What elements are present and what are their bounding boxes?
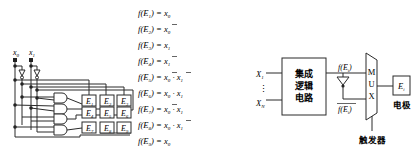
equation-list: f(E1) = x0 f(E2) = x0 f(E3) = x1 f(E4) =… (138, 8, 191, 147)
equation-e5: f(E5) = x0 · x1 (138, 72, 191, 83)
mux-letter-x: X (368, 91, 374, 101)
input-xn-label: XN (255, 98, 265, 109)
electrode-e5: E5 (100, 107, 114, 119)
and-gate-icon (54, 104, 67, 114)
svg-text:f(E8) = x0 · x1: f(E8) = x0 · x1 (138, 120, 183, 131)
figure-canvas: x0 x1 (0, 0, 420, 155)
svg-text:f(E2) = x0: f(E2) = x0 (138, 24, 171, 35)
electrode-e6: E6 (117, 107, 131, 119)
left-circuit: x0 x1 (12, 48, 133, 137)
svg-text:f(E6) = x0 · x1: f(E6) = x0 · x1 (138, 88, 183, 99)
logic-block-line1: 集成 (294, 68, 313, 79)
equation-e3: f(E3) = x1 (138, 40, 170, 51)
inverter-x1-icon (34, 70, 40, 76)
electrode-caption: 电极 (393, 100, 411, 110)
right-block-diagram: X1 ⋮ XN 集成 逻辑 电路 f(Ei) f(Ei) M U X (255, 53, 411, 145)
inverter-icon (337, 77, 349, 85)
equation-e1: f(E1) = x0 (138, 8, 171, 19)
input-ellipsis: ⋮ (259, 84, 268, 94)
electrode-e3: E3 (117, 95, 131, 107)
and-gate-icon (54, 114, 67, 124)
inverter-x0-icon (19, 70, 25, 76)
electrode-e1: E1 (82, 95, 96, 107)
equation-e2: f(E2) = x0 (138, 24, 177, 35)
input-x0-label: x0 (12, 48, 20, 58)
electrode-e4: E4 (82, 107, 96, 119)
inverted-signal-label: f(Ei) (338, 105, 352, 115)
equation-e9: f(E9) = x0 (138, 136, 171, 147)
input-pad-x0 (13, 58, 17, 62)
trigger-label: 触发器 (358, 135, 386, 145)
equation-e4: f(E4) = x1 (138, 56, 177, 67)
electrode-grid: E1 E2 E3 E4 E5 E6 E7 E8 E9 (82, 95, 131, 134)
input-x1-label: X1 (255, 69, 264, 80)
logic-block-line3: 电路 (295, 92, 314, 103)
and-gate-icon (54, 125, 67, 135)
svg-text:f(E7) = x0 · x1: f(E7) = x0 · x1 (138, 104, 183, 115)
mux-letter-m: M (368, 67, 376, 77)
svg-text:f(E3) = x1: f(E3) = x1 (138, 40, 170, 51)
electrode-e9: E9 (117, 122, 131, 134)
electrode-e8: E8 (100, 122, 114, 134)
input-pad-x1 (29, 58, 33, 62)
svg-text:f(E4) = x1: f(E4) = x1 (138, 56, 170, 67)
electrode-e7: E7 (82, 122, 96, 134)
and-gates (54, 93, 67, 135)
svg-text:f(E9) = x0: f(E9) = x0 (138, 136, 171, 147)
equation-e6: f(E6) = x0 · x1 (138, 88, 183, 99)
svg-text:f(E5) = x0 · x1: f(E5) = x0 · x1 (138, 72, 183, 83)
signal-label: f(Ei) (338, 63, 352, 73)
equation-e7: f(E7) = x0 · x1 (138, 104, 183, 115)
electrode-e2: E2 (100, 95, 114, 107)
svg-text:f(E1) = x0: f(E1) = x0 (138, 8, 171, 19)
mux-letter-u: U (368, 79, 374, 89)
input-x1-label: x1 (28, 48, 35, 58)
and-gate-icon (54, 93, 67, 103)
logic-block-line2: 逻辑 (294, 80, 313, 91)
equation-e8: f(E8) = x0 · x1 (138, 120, 191, 131)
